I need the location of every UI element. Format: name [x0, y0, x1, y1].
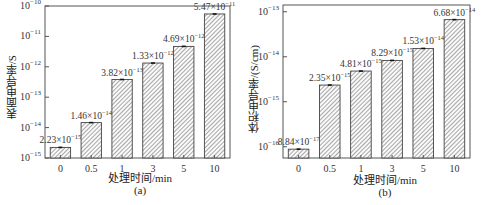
bar	[204, 14, 224, 158]
bar	[351, 71, 372, 158]
panel-caption-a: (a)	[120, 184, 160, 196]
data-label: 1.33×10−12	[132, 49, 174, 61]
y-tick-label: 10−11	[20, 28, 41, 41]
x-tick-label: 10	[449, 163, 459, 174]
bar	[143, 63, 163, 158]
y-tick-label: 10−16	[258, 139, 279, 152]
y-tick-label: 10−13	[258, 4, 279, 17]
data-label: 1.46×10−14	[70, 109, 112, 121]
data-label: 1.53×10−14	[402, 34, 444, 46]
chart-panel-b: 10−1610−1510−1410−1308.84×10−170.52.35×1…	[240, 0, 481, 205]
y-tick-label: 10−12	[20, 59, 41, 72]
data-label: 8.84×10−17	[278, 135, 320, 147]
data-label: 2.35×10−15	[309, 71, 351, 83]
x-tick-label: 10	[210, 163, 220, 174]
bar	[81, 123, 101, 158]
x-tick-label: 0	[58, 163, 63, 174]
data-label: 2.23×10−15	[40, 133, 82, 145]
y-tick-label: 10−10	[20, 0, 41, 11]
x-tick-label: 0	[296, 163, 301, 174]
y-tick-label: 10−15	[20, 150, 41, 163]
data-label: 5.47×10−11	[194, 0, 235, 12]
bar	[174, 46, 194, 158]
y-axis-label-a: 表面电导率/S	[4, 55, 20, 119]
y-tick-label: 10−13	[20, 89, 41, 102]
bar	[319, 85, 340, 158]
y-axis-label-b: 体积电导率/(S/cm)	[246, 45, 262, 133]
bar	[413, 48, 434, 158]
x-axis-label-a: 处理时间/min	[90, 169, 190, 185]
data-label: 4.81×10−15	[340, 57, 382, 69]
bar	[382, 60, 403, 158]
data-label: 3.82×10−13	[101, 66, 143, 78]
y-tick-label: 10−14	[20, 120, 41, 133]
x-axis-label-b: 处理时间/min	[335, 171, 435, 187]
bar	[444, 20, 465, 158]
panel-caption-b: (b)	[365, 186, 405, 198]
data-label: 4.69×10−12	[163, 32, 205, 44]
chart-panel-a: 10−1510−1410−1310−1210−1110−1002.23×10−1…	[0, 0, 240, 205]
data-label: 8.29×10−15	[371, 46, 413, 58]
bar	[112, 80, 132, 158]
